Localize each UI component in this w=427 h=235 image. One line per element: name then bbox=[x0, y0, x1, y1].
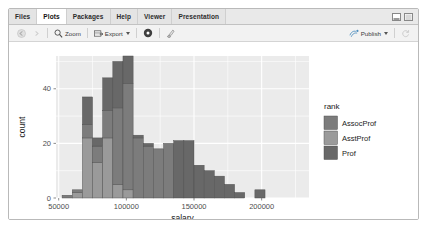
legend-swatch bbox=[324, 116, 338, 130]
back-button[interactable] bbox=[14, 27, 29, 40]
histogram-bar-segment bbox=[133, 138, 143, 198]
tab-bar-filler bbox=[226, 9, 387, 24]
pane-window-controls bbox=[387, 9, 418, 24]
toolbar-separator bbox=[394, 28, 395, 38]
histogram-bar-segment bbox=[72, 190, 82, 193]
remove-plot-icon bbox=[143, 28, 153, 38]
chevron-down-icon bbox=[126, 32, 130, 35]
histogram-bar-segment bbox=[255, 190, 265, 198]
chevron-down-icon bbox=[384, 32, 388, 35]
histogram-bar-segment bbox=[93, 138, 103, 146]
remove-plot-button[interactable] bbox=[140, 27, 156, 40]
screenshot-root: Files Plots Packages Help Viewer Present… bbox=[0, 0, 427, 235]
histogram-bar-segment bbox=[153, 149, 163, 198]
plot-output-area[interactable]: 0204050000100000150000200000salarycountr… bbox=[9, 43, 418, 220]
histogram-bar-segment bbox=[62, 195, 72, 198]
tab-help[interactable]: Help bbox=[111, 9, 139, 24]
legend-item[interactable]: AssocProf bbox=[324, 116, 377, 130]
histogram-bar-segment bbox=[72, 193, 82, 198]
tab-presentation-label: Presentation bbox=[178, 13, 219, 20]
x-axis-tick-label: 50000 bbox=[48, 202, 69, 211]
tab-packages[interactable]: Packages bbox=[67, 9, 111, 24]
histogram-bar-segment bbox=[103, 138, 113, 198]
plots-toolbar: Zoom Export bbox=[9, 25, 418, 42]
forward-arrow-icon bbox=[32, 29, 41, 38]
histogram-bar-segment bbox=[204, 171, 214, 198]
clear-all-plots-icon bbox=[166, 29, 175, 38]
histogram-bar-segment bbox=[184, 141, 194, 198]
refresh-button[interactable] bbox=[398, 27, 413, 40]
legend-label: AssocProf bbox=[342, 119, 377, 128]
y-axis-title: count bbox=[17, 116, 27, 137]
histogram-bar-segment bbox=[103, 78, 113, 111]
histogram-bar-segment bbox=[194, 165, 204, 198]
legend-swatch bbox=[324, 146, 338, 160]
histogram-bar-segment bbox=[224, 184, 234, 198]
tab-help-label: Help bbox=[117, 13, 132, 20]
forward-button[interactable] bbox=[29, 27, 44, 40]
histogram-bar-segment bbox=[113, 61, 123, 107]
x-axis-tick-label: 100000 bbox=[114, 202, 139, 211]
rstudio-plots-pane: Files Plots Packages Help Viewer Present… bbox=[8, 8, 419, 220]
histogram-bar-segment bbox=[93, 163, 103, 199]
y-axis-tick-label: 40 bbox=[43, 84, 51, 93]
tab-files-label: Files bbox=[15, 13, 30, 20]
histogram-bar-segment bbox=[93, 146, 103, 162]
histogram-bar-segment bbox=[143, 146, 153, 198]
publish-icon bbox=[349, 29, 359, 38]
legend-title: rank bbox=[324, 102, 341, 111]
toolbar-separator bbox=[47, 28, 48, 38]
legend-item[interactable]: Prof bbox=[324, 146, 357, 160]
magnifier-icon bbox=[54, 29, 63, 38]
toolbar-separator bbox=[136, 28, 137, 38]
ggplot-stacked-histogram: 0204050000100000150000200000salarycountr… bbox=[9, 43, 418, 220]
export-button[interactable]: Export bbox=[91, 27, 133, 40]
tab-packages-label: Packages bbox=[73, 13, 104, 20]
toolbar-separator bbox=[159, 28, 160, 38]
x-axis-tick-label: 200000 bbox=[249, 202, 274, 211]
y-axis-tick-label: 20 bbox=[43, 139, 51, 148]
histogram-bar-segment bbox=[82, 97, 92, 124]
histogram-bar-segment bbox=[235, 193, 245, 198]
legend-swatch bbox=[324, 131, 338, 145]
histogram-bar-segment bbox=[82, 138, 92, 198]
export-image-icon bbox=[94, 29, 103, 38]
x-axis-title: salary bbox=[171, 213, 194, 220]
histogram-bar-segment bbox=[123, 190, 133, 198]
tab-files[interactable]: Files bbox=[9, 9, 37, 24]
tab-presentation[interactable]: Presentation bbox=[172, 9, 226, 24]
back-arrow-icon bbox=[17, 29, 26, 38]
x-axis-tick-label: 150000 bbox=[181, 202, 206, 211]
zoom-button[interactable]: Zoom bbox=[51, 27, 84, 40]
pane-tab-bar: Files Plots Packages Help Viewer Present… bbox=[9, 9, 418, 25]
publish-button[interactable]: Publish bbox=[346, 27, 391, 40]
refresh-icon bbox=[401, 29, 410, 38]
histogram-bar-segment bbox=[113, 184, 123, 198]
tab-viewer-label: Viewer bbox=[144, 13, 165, 20]
histogram-bar-segment bbox=[133, 135, 143, 138]
zoom-label: Zoom bbox=[65, 30, 81, 37]
histogram-bar-segment bbox=[113, 108, 123, 184]
legend-label: Prof bbox=[342, 149, 357, 158]
toolbar-separator bbox=[87, 28, 88, 38]
legend-item[interactable]: AsstProf bbox=[324, 131, 371, 145]
clear-all-plots-button[interactable] bbox=[163, 27, 178, 40]
tab-viewer[interactable]: Viewer bbox=[138, 9, 172, 24]
histogram-bar-segment bbox=[123, 83, 133, 190]
histogram-bar-segment bbox=[82, 124, 92, 138]
histogram-bar-segment bbox=[143, 143, 153, 146]
histogram-bar-segment bbox=[103, 111, 113, 138]
histogram-bar-segment bbox=[214, 176, 224, 198]
histogram-bar-segment bbox=[164, 143, 174, 198]
legend-label: AsstProf bbox=[342, 134, 371, 143]
tab-plots[interactable]: Plots bbox=[37, 9, 66, 24]
histogram-bar-segment bbox=[174, 141, 184, 198]
tab-plots-label: Plots bbox=[43, 13, 59, 20]
publish-label: Publish bbox=[361, 30, 381, 37]
histogram-bar-segment bbox=[123, 56, 133, 83]
maximize-pane-icon[interactable] bbox=[404, 13, 413, 21]
export-label: Export bbox=[105, 30, 123, 37]
minimize-pane-icon[interactable] bbox=[392, 13, 401, 21]
